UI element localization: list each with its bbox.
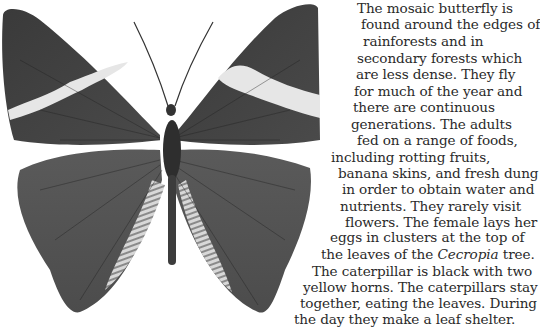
text-line: found around the edges of: [361, 16, 540, 32]
text-line: secondary forests which: [357, 50, 522, 66]
text-line: in order to obtain water and: [342, 181, 534, 197]
text-line: rainforests and in: [363, 33, 483, 49]
left-antenna: [134, 22, 168, 106]
text-line: nutrients. They rarely visit: [340, 198, 521, 214]
species-name: Cecropia: [437, 246, 498, 262]
text-line: The mosaic butterfly is: [357, 0, 513, 16]
text-line: fed on a range of foods,: [357, 132, 518, 148]
text-line: yellow horns. The caterpillars stay: [303, 279, 538, 295]
text-line: flowers. The female lays her: [345, 214, 537, 230]
text-line: eggs in clusters at the top of: [330, 229, 525, 245]
right-antenna: [175, 22, 213, 106]
text-line: together, eating the leaves. During: [300, 295, 537, 311]
text-line: are less dense. They fly: [356, 66, 515, 82]
butterfly-illustration: [0, 0, 320, 324]
text-line: there are continuous: [353, 99, 495, 115]
text-line: the leaves of the Cecropia tree.: [321, 246, 535, 262]
text-line: for much of the year and: [354, 83, 522, 99]
text-line: the day they make a leaf shelter.: [294, 311, 515, 327]
abdomen: [168, 175, 176, 265]
thorax: [163, 120, 181, 180]
text-line: banana skins, and fresh dung: [338, 165, 538, 181]
text-line: The caterpillar is black with two: [312, 263, 532, 279]
text-line: including rotting fruits,: [331, 149, 490, 165]
text-line: generations. The adults: [351, 116, 512, 132]
